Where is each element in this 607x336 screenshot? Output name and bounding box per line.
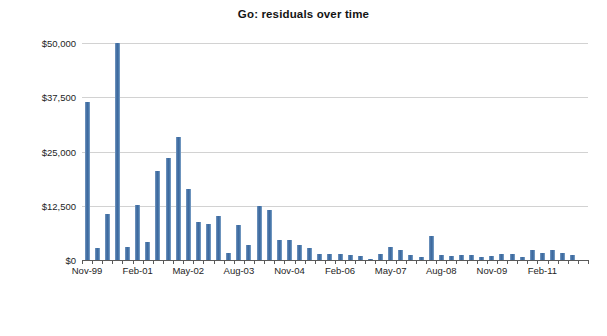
x-tick-mark	[264, 260, 265, 264]
bar	[145, 242, 150, 260]
bar	[186, 189, 191, 260]
x-tick-mark	[446, 260, 447, 264]
bar	[287, 240, 292, 260]
x-tick-mark	[173, 260, 174, 264]
bar	[429, 236, 434, 260]
x-tick-mark	[497, 260, 498, 264]
x-tick-mark	[345, 260, 346, 264]
x-tick-mark	[163, 260, 164, 264]
bar	[277, 240, 282, 260]
bar	[95, 248, 100, 260]
x-tick-mark	[112, 260, 113, 264]
x-tick-label: Nov-09	[477, 265, 508, 276]
y-axis: $0$12,500$25,000$37,500$50,000	[0, 43, 76, 260]
x-tick-label: May-07	[375, 265, 407, 276]
plot-area	[82, 43, 588, 260]
bar	[206, 224, 211, 260]
bar	[226, 253, 231, 260]
x-tick-mark	[133, 260, 134, 264]
bar	[135, 205, 140, 260]
x-tick-mark	[527, 260, 528, 264]
x-tick-mark	[234, 260, 235, 264]
x-axis: Nov-99Feb-01May-02Aug-03Nov-04Feb-06May-…	[0, 265, 607, 281]
x-tick-mark	[588, 260, 589, 264]
x-tick-mark	[568, 260, 569, 264]
x-tick-mark	[193, 260, 194, 264]
x-tick-mark	[295, 260, 296, 264]
x-tick-mark	[456, 260, 457, 264]
x-tick-mark	[537, 260, 538, 264]
x-tick-mark	[224, 260, 225, 264]
x-tick-mark	[82, 260, 83, 264]
x-tick-mark	[578, 260, 579, 264]
bar	[246, 245, 251, 260]
x-tick-mark	[153, 260, 154, 264]
bar	[196, 222, 201, 260]
x-tick-mark	[507, 260, 508, 264]
x-tick-mark	[315, 260, 316, 264]
x-tick-label: Aug-08	[426, 265, 457, 276]
x-tick-mark	[406, 260, 407, 264]
x-tick-mark	[467, 260, 468, 264]
x-tick-mark	[254, 260, 255, 264]
bar	[85, 102, 90, 260]
bar	[540, 253, 545, 260]
x-tick-mark	[365, 260, 366, 264]
x-tick-mark	[325, 260, 326, 264]
bar	[267, 210, 272, 260]
chart-title: Go: residuals over time	[0, 8, 607, 20]
x-tick-label: Feb-06	[325, 265, 355, 276]
x-tick-mark	[375, 260, 376, 264]
x-tick-mark	[355, 260, 356, 264]
x-tick-label: Aug-03	[224, 265, 255, 276]
x-tick-mark	[122, 260, 123, 264]
y-tick-label: $50,000	[0, 38, 76, 49]
x-tick-mark	[386, 260, 387, 264]
bar	[105, 214, 110, 260]
bar	[166, 158, 171, 260]
x-tick-mark	[203, 260, 204, 264]
y-tick-label: $12,500	[0, 200, 76, 211]
bar	[216, 216, 221, 260]
bar	[530, 250, 535, 260]
y-tick-label: $25,000	[0, 146, 76, 157]
x-tick-label: May-02	[172, 265, 204, 276]
x-tick-mark	[416, 260, 417, 264]
bar	[115, 43, 120, 260]
x-tick-mark	[305, 260, 306, 264]
bar	[236, 225, 241, 260]
bar-series	[82, 43, 588, 260]
bar	[550, 250, 555, 260]
x-tick-mark	[92, 260, 93, 264]
y-tick-label: $37,500	[0, 92, 76, 103]
x-axis-ticks	[82, 260, 588, 264]
x-tick-mark	[517, 260, 518, 264]
x-tick-mark	[396, 260, 397, 264]
x-tick-label: Nov-04	[274, 265, 305, 276]
bar	[176, 137, 181, 260]
bar	[125, 247, 130, 260]
bar	[398, 250, 403, 260]
x-tick-mark	[426, 260, 427, 264]
x-tick-mark	[477, 260, 478, 264]
bar	[388, 247, 393, 260]
x-tick-label: Feb-01	[123, 265, 153, 276]
x-tick-mark	[244, 260, 245, 264]
x-tick-mark	[284, 260, 285, 264]
bar	[307, 248, 312, 260]
y-tick-label: $0	[0, 255, 76, 266]
bar	[560, 253, 565, 260]
x-tick-mark	[436, 260, 437, 264]
chart-container: Go: residuals over time $0$12,500$25,000…	[0, 0, 607, 336]
x-tick-mark	[558, 260, 559, 264]
x-tick-mark	[214, 260, 215, 264]
bar	[257, 206, 262, 260]
x-tick-mark	[548, 260, 549, 264]
x-tick-mark	[335, 260, 336, 264]
x-tick-mark	[102, 260, 103, 264]
x-tick-label: Feb-11	[528, 265, 557, 276]
x-tick-mark	[274, 260, 275, 264]
x-tick-mark	[143, 260, 144, 264]
bar	[155, 171, 160, 260]
x-tick-mark	[487, 260, 488, 264]
